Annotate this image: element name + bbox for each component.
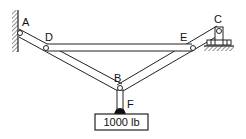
pin-c (217, 29, 222, 34)
wall-support-a (12, 10, 18, 52)
member-de (47, 44, 193, 51)
pin-e (191, 46, 196, 51)
label-a: A (22, 16, 30, 28)
label-c: C (214, 13, 222, 25)
load-weight: 1000 lb (95, 114, 148, 130)
label-e: E (180, 31, 187, 43)
member-cb (117, 26, 221, 91)
hanger-rod-bf (114, 90, 126, 115)
pin-d (44, 46, 49, 51)
member-ab (19, 29, 122, 91)
truss-diagram: 1000 lb A D E C B F (0, 0, 246, 139)
label-b: B (114, 72, 121, 84)
label-d: D (45, 31, 53, 43)
load-label: 1000 lb (103, 116, 139, 128)
label-f: F (127, 98, 134, 110)
pin-b (118, 86, 123, 91)
pin-a (18, 31, 23, 36)
